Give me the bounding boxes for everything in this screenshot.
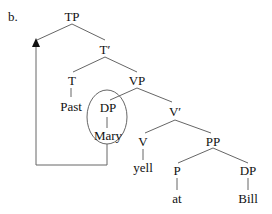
node-p: P: [173, 164, 180, 178]
node-pp: PP: [206, 135, 220, 149]
node-v: V: [138, 135, 147, 149]
node-bill: Bill: [238, 192, 258, 206]
node-t: T: [68, 74, 76, 88]
node-mary: Mary: [94, 129, 122, 143]
node-dp-subject: DP: [100, 101, 117, 115]
node-tp: TP: [64, 10, 79, 24]
node-tbar: T′: [100, 43, 111, 57]
node-vp: VP: [129, 74, 146, 88]
node-at: at: [172, 192, 181, 206]
node-past: Past: [60, 100, 82, 114]
node-yell: yell: [133, 161, 153, 175]
node-vbar: V′: [169, 105, 181, 119]
node-dp-object: DP: [240, 164, 257, 178]
tree-branches: [0, 0, 272, 214]
